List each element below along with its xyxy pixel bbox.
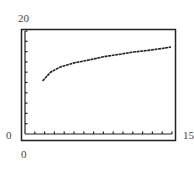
data-curve: [43, 47, 171, 81]
chart-plot: [0, 0, 194, 169]
tick-marks: [25, 31, 172, 134]
chart-frame: [22, 30, 176, 141]
axes: [25, 31, 172, 134]
